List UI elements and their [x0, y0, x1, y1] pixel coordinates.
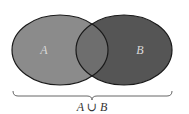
- set-a-label: A: [39, 43, 48, 57]
- union-brace: [13, 91, 172, 100]
- set-b-label: B: [136, 43, 144, 57]
- union-caption: A ∪ B: [76, 100, 108, 114]
- venn-diagram: A B A ∪ B: [0, 0, 189, 114]
